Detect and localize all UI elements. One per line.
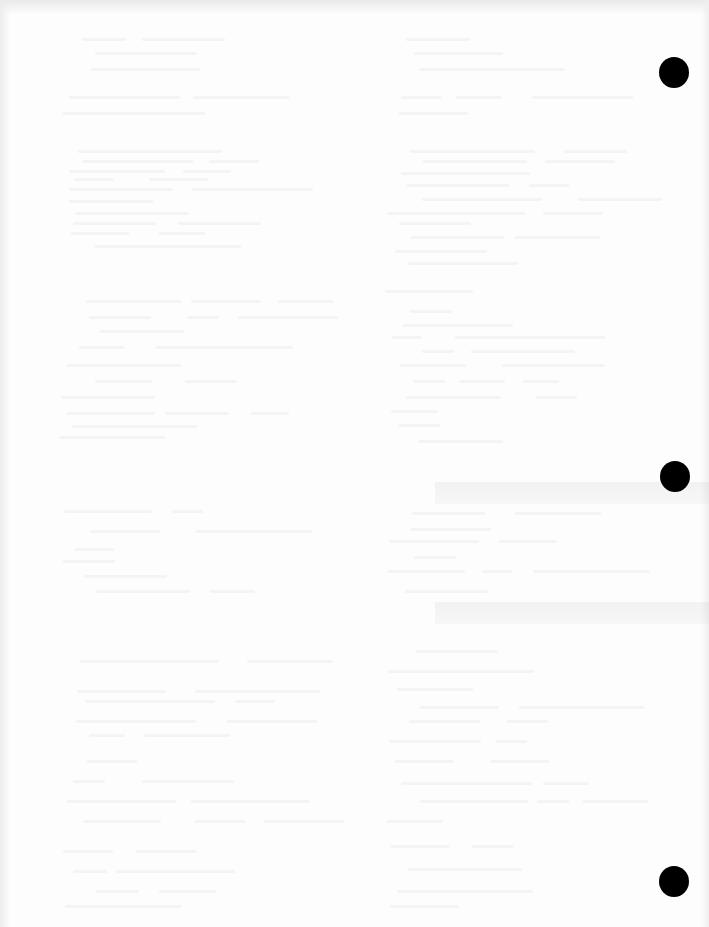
- bleed-through-text-fragment: [196, 530, 312, 533]
- bleed-through-text-fragment: [564, 150, 627, 153]
- bleed-through-text-fragment: [86, 300, 183, 303]
- bleed-through-text-fragment: [408, 262, 517, 265]
- bleed-through-text-fragment: [416, 650, 497, 653]
- bleed-through-text-fragment: [408, 868, 523, 871]
- bleed-through-text-fragment: [66, 364, 181, 367]
- bleed-through-text-fragment: [82, 160, 193, 163]
- bleed-through-text-fragment: [60, 436, 165, 439]
- bleed-through-text-fragment: [395, 760, 454, 763]
- punch-hole: [659, 866, 689, 897]
- bleed-through-text-fragment: [582, 800, 647, 803]
- bleed-through-text-fragment: [73, 870, 106, 873]
- bleed-through-text-fragment: [78, 150, 223, 153]
- bleed-through-text-fragment: [388, 212, 525, 215]
- bleed-through-text-fragment: [496, 740, 526, 743]
- bleed-through-text-fragment: [69, 170, 165, 173]
- bleed-through-text-fragment: [165, 412, 229, 415]
- bleed-through-text-fragment: [149, 178, 208, 181]
- bleed-through-text-fragment: [515, 512, 601, 515]
- bleed-through-text-fragment: [392, 336, 422, 339]
- bleed-through-text-fragment: [545, 160, 615, 163]
- bleed-through-text-fragment: [422, 198, 542, 201]
- bleed-through-text-fragment: [210, 590, 254, 593]
- bleed-through-text-fragment: [74, 548, 113, 551]
- bleed-through-text-fragment: [390, 905, 459, 908]
- bleed-through-text-fragment: [74, 178, 114, 181]
- bleed-through-text-fragment: [91, 68, 200, 71]
- bleed-through-text-fragment: [390, 845, 450, 848]
- bleed-through-text-fragment: [159, 232, 205, 235]
- bleed-through-text-fragment: [401, 96, 441, 99]
- bleed-through-text-fragment: [69, 188, 171, 191]
- bleed-through-text-fragment: [76, 720, 196, 723]
- bleed-through-text-fragment: [96, 890, 139, 893]
- bleed-through-text-fragment: [278, 300, 334, 303]
- bleed-through-text-fragment: [69, 96, 180, 99]
- bleed-through-band: [435, 602, 709, 624]
- bleed-through-text-fragment: [172, 510, 203, 513]
- bleed-through-text-fragment: [536, 396, 577, 399]
- bleed-through-text-fragment: [420, 68, 564, 71]
- bleed-through-text-fragment: [156, 346, 294, 349]
- bleed-through-text-fragment: [95, 52, 196, 55]
- bleed-through-text-fragment: [87, 760, 137, 763]
- bleed-through-text-fragment: [533, 570, 650, 573]
- bleed-through-text-fragment: [209, 160, 259, 163]
- bleed-through-text-fragment: [79, 346, 124, 349]
- bleed-through-text-fragment: [422, 350, 454, 353]
- bleed-through-text-fragment: [76, 212, 188, 215]
- bleed-through-text-fragment: [406, 38, 469, 41]
- bleed-through-text-fragment: [159, 890, 216, 893]
- bleed-through-text-fragment: [471, 350, 575, 353]
- bleed-through-text-fragment: [66, 412, 155, 415]
- bleed-through-text-fragment: [89, 734, 125, 737]
- bleed-through-text-fragment: [400, 364, 466, 367]
- bleed-through-text-fragment: [472, 845, 513, 848]
- bleed-through-text-fragment: [578, 198, 662, 201]
- bleed-through-text-fragment: [67, 800, 176, 803]
- bleed-through-text-fragment: [100, 330, 185, 333]
- bleed-through-text-fragment: [406, 184, 509, 187]
- bleed-through-text-fragment: [144, 734, 230, 737]
- bleed-through-text-fragment: [385, 290, 473, 293]
- bleed-through-text-fragment: [405, 590, 488, 593]
- bleed-through-text-fragment: [195, 690, 319, 693]
- bleed-through-text-fragment: [537, 800, 569, 803]
- bleed-through-text-fragment: [529, 184, 569, 187]
- bleed-through-text-fragment: [502, 364, 603, 367]
- bleed-through-text-fragment: [420, 800, 529, 803]
- bleed-through-text-fragment: [63, 850, 113, 853]
- bleed-through-text-fragment: [142, 780, 234, 783]
- bleed-through-text-fragment: [543, 782, 589, 785]
- bleed-through-text-fragment: [188, 316, 219, 319]
- punch-hole: [659, 57, 689, 88]
- bleed-through-text-fragment: [456, 96, 502, 99]
- bleed-through-text-fragment: [89, 316, 151, 319]
- bleed-through-text-fragment: [185, 380, 235, 383]
- bleed-through-text-fragment: [406, 396, 499, 399]
- bleed-through-text-fragment: [84, 575, 167, 578]
- bleed-through-text-fragment: [73, 222, 156, 225]
- bleed-through-text-fragment: [251, 412, 289, 415]
- bleed-through-text-fragment: [191, 300, 260, 303]
- bleed-through-text-fragment: [523, 380, 560, 383]
- bleed-through-text-fragment: [389, 540, 479, 543]
- bleed-through-text-fragment: [410, 150, 535, 153]
- bleed-through-text-fragment: [543, 212, 603, 215]
- bleed-through-text-fragment: [77, 690, 167, 693]
- bleed-through-text-fragment: [142, 38, 225, 41]
- bleed-through-text-fragment: [410, 528, 492, 531]
- bleed-through-text-fragment: [95, 380, 153, 383]
- bleed-through-text-fragment: [238, 316, 338, 319]
- bleed-through-text-fragment: [423, 160, 526, 163]
- bleed-through-text-fragment: [399, 222, 471, 225]
- scan-edge-shadow-left: [0, 0, 10, 927]
- bleed-through-text-fragment: [399, 112, 468, 115]
- bleed-through-text-fragment: [532, 96, 633, 99]
- bleed-through-text-fragment: [82, 38, 126, 41]
- bleed-through-text-fragment: [490, 760, 549, 763]
- bleed-through-text-fragment: [72, 425, 197, 428]
- bleed-through-text-fragment: [264, 820, 344, 823]
- bleed-through-text-fragment: [420, 706, 500, 709]
- bleed-through-text-fragment: [64, 510, 151, 513]
